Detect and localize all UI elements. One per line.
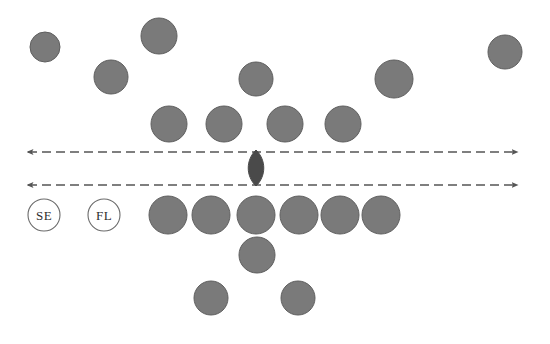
legend-item-se[interactable]: SE xyxy=(28,199,60,231)
marker-circle xyxy=(239,62,273,96)
marker-circle xyxy=(151,106,187,142)
legend-label-fl: FL xyxy=(96,208,112,223)
marker-circle xyxy=(141,18,177,54)
marker-circle xyxy=(192,196,230,234)
diagram-svg: SEFL xyxy=(0,0,550,344)
legend-item-fl[interactable]: FL xyxy=(88,199,120,231)
markers-row-above-upper-axis xyxy=(151,106,361,142)
marker-circle xyxy=(30,32,60,62)
center-lens-shape xyxy=(248,150,264,186)
marker-circle xyxy=(94,60,128,94)
markers-above-upper-axis-scattered xyxy=(30,18,522,98)
marker-circle xyxy=(281,281,315,315)
marker-circle xyxy=(325,106,361,142)
marker-circle xyxy=(237,196,275,234)
legend-group: SEFL xyxy=(28,199,120,231)
marker-circle xyxy=(149,196,187,234)
axes-group xyxy=(28,152,518,185)
marker-circle xyxy=(239,237,275,273)
marker-circle xyxy=(194,281,228,315)
markers-bottom-scattered xyxy=(194,237,315,315)
markers-row-below-lower-axis xyxy=(149,196,400,234)
marker-circle xyxy=(375,60,413,98)
marker-circle xyxy=(488,35,522,69)
center-lens xyxy=(248,150,264,186)
marker-circle xyxy=(206,106,242,142)
marker-circle xyxy=(362,196,400,234)
legend-label-se: SE xyxy=(36,208,52,223)
marker-circle xyxy=(267,106,303,142)
marker-circle xyxy=(321,196,359,234)
marker-circle xyxy=(280,196,318,234)
diagram-canvas: SEFL xyxy=(0,0,550,344)
